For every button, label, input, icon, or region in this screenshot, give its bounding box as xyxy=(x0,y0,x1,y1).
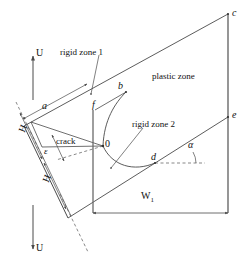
marker-d xyxy=(154,162,156,164)
slip-curve-0-to-d xyxy=(103,146,155,167)
specimen-outline xyxy=(24,14,228,218)
label-point-e: e xyxy=(232,110,236,120)
diagram-canvas xyxy=(0,0,243,260)
label-plastic-zone: plastic zone xyxy=(152,72,195,81)
angle-arc-alpha xyxy=(193,152,196,163)
label-dim-w1-subscript: 1 xyxy=(150,196,154,204)
marker-b xyxy=(125,91,127,93)
segment-f-to-b xyxy=(95,92,126,110)
label-epsilon: ε xyxy=(44,147,48,156)
leader-rigid-zone-1 xyxy=(91,55,99,94)
marker-o xyxy=(102,145,104,147)
crack-lower-face xyxy=(42,146,103,147)
label-point-b: b xyxy=(118,81,123,91)
label-point-c: c xyxy=(232,8,236,18)
dimension-h-lower xyxy=(44,163,66,209)
label-rigid-zone-1: rigid zone 1 xyxy=(60,48,103,57)
label-point-d: d xyxy=(151,152,156,162)
label-load-top: U xyxy=(36,48,43,58)
label-load-bottom: U xyxy=(36,243,43,253)
marker-c xyxy=(227,13,229,15)
label-point-f: f xyxy=(92,100,95,110)
dash-from-0 xyxy=(56,146,103,160)
label-crack: crack xyxy=(56,137,75,146)
label-alpha: α xyxy=(188,140,193,150)
label-dim-w1: W1 xyxy=(141,191,154,204)
marker-e xyxy=(227,116,229,118)
dimension-h-upper xyxy=(20,113,42,159)
label-point-o: 0 xyxy=(105,139,110,149)
leader-lines xyxy=(91,55,143,168)
label-dim-a: a xyxy=(42,101,47,111)
dash-left-lower xyxy=(60,194,88,252)
top-edge xyxy=(24,14,228,126)
leader-rigid-zone-2 xyxy=(111,128,143,168)
figure-container: U U rigid zone 1 rigid zone 2 plastic zo… xyxy=(0,0,243,260)
label-rigid-zone-2: rigid zone 2 xyxy=(132,120,175,129)
